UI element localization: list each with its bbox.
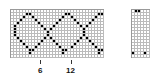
knitting-chart-side	[131, 9, 150, 58]
label-12: 12	[66, 66, 75, 75]
tick-12	[71, 60, 72, 64]
tick-6	[40, 60, 41, 64]
label-6: 6	[38, 66, 42, 75]
knitting-chart-main	[10, 9, 104, 58]
chart-cell	[147, 55, 150, 58]
chart-cell	[101, 55, 104, 58]
